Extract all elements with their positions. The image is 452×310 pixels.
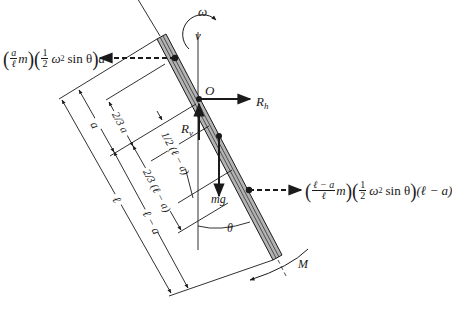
mg-label: mg (211, 192, 226, 206)
upper-inertial-force-label: ( aℓ m )( 12 ω2 sin θ ) a (3, 48, 105, 69)
Rh-label: Rh (255, 94, 269, 111)
lower-cm-dot (246, 187, 252, 193)
lower-inertial-force-label: ( ℓ − aℓ m )( 12 ω2 sin θ ) (ℓ − a) (305, 180, 452, 201)
omega-label: ω (198, 4, 207, 19)
Rv-label: Rv (180, 121, 193, 138)
dim-label-two-thirds-l-minus-a: 2/3 (ℓ − a) (140, 167, 174, 215)
rod-extension-line (136, 0, 160, 36)
upper-cm-dot (172, 55, 178, 61)
center-of-mass-dot (216, 133, 222, 139)
moment-label: M (297, 257, 309, 271)
v-label: v (195, 28, 201, 43)
theta-arc (198, 222, 250, 228)
origin-label: O (205, 83, 215, 98)
ext-line-upper-cm (106, 64, 165, 100)
pivot-point (196, 96, 202, 102)
rod-centerline-2 (163, 36, 279, 257)
dim-line-half-l-minus-a (157, 111, 162, 120)
dim-label-l-minus-a: ℓ − a (140, 208, 164, 237)
theta-label: θ (227, 221, 233, 235)
